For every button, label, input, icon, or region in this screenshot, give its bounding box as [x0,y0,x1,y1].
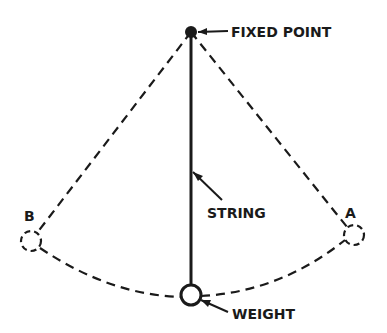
position-a-circle [344,225,364,245]
fixed-point-label: FIXED POINT [231,24,332,40]
position-b-circle [21,231,41,251]
weight-circle [181,285,201,305]
position-b-label: B [24,208,35,224]
weight-label: WEIGHT [232,306,295,322]
dashed-string-to-a [191,32,347,227]
position-a-label: A [345,205,356,221]
string-label: STRING [207,205,266,221]
swing-arc-right [201,240,345,296]
fixed-point-arrowhead [198,28,207,35]
pendulum-diagram: FIXED POINT STRING WEIGHT B A [0,0,387,333]
swing-arc [40,248,181,297]
weight-arrowhead [201,300,211,307]
fixed-point-dot [185,26,197,38]
dashed-string-to-b [37,32,191,233]
